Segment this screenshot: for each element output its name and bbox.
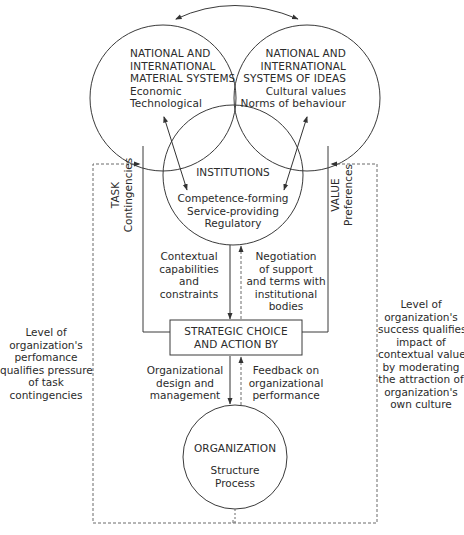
institutions-item-competence: Competence-forming xyxy=(173,192,293,205)
strategic-choice-label: STRATEGIC CHOICE AND ACTION BY xyxy=(170,325,302,350)
material-item-technological: Technological xyxy=(130,97,235,110)
right-note-line-4: impact of xyxy=(378,336,464,349)
negotiation-line-2: of support xyxy=(243,263,329,276)
right-note-line-2: organization's xyxy=(378,311,464,324)
organization-title: ORGANIZATION xyxy=(185,442,285,455)
ideas-item-norms: Norms of behaviour xyxy=(241,97,346,110)
left-note-line-6: contingencies xyxy=(0,389,92,402)
organization-items: Structure Process xyxy=(185,464,285,489)
negotiation-line-5: bodies xyxy=(243,300,329,313)
contextual-line-2: capabilities xyxy=(150,263,228,276)
left-note-line-1: Level of xyxy=(0,326,92,339)
organization-item-process: Process xyxy=(185,477,285,490)
top-double-arrow xyxy=(176,6,298,20)
material-systems-label: NATIONAL AND INTERNATIONAL MATERIAL SYST… xyxy=(130,47,235,110)
material-title-1: NATIONAL AND xyxy=(130,47,235,60)
ideas-title-3: SYSTEMS OF IDEAS xyxy=(241,72,346,85)
institutions-title: INSTITUTIONS xyxy=(183,166,283,179)
organization-item-structure: Structure xyxy=(185,464,285,477)
contextual-label: Contextual capabilities and constraints xyxy=(150,250,228,300)
ideas-systems-label: NATIONAL AND INTERNATIONAL SYSTEMS OF ID… xyxy=(241,47,346,110)
negotiation-line-4: institutional xyxy=(243,288,329,301)
material-institutions-arrow xyxy=(164,117,187,190)
org-design-label: Organizational design and management xyxy=(142,364,228,402)
feedback-line-1: Feedback on xyxy=(243,364,329,377)
right-note-line-9: own culture xyxy=(378,398,464,411)
ideas-institutions-arrow xyxy=(284,117,307,190)
material-title-3: MATERIAL SYSTEMS xyxy=(130,72,235,85)
right-note-line-6: by moderating xyxy=(378,361,464,374)
strategic-line-2: AND ACTION BY xyxy=(170,338,302,351)
ideas-item-cultural: Cultural values xyxy=(241,85,346,98)
strategic-line-1: STRATEGIC CHOICE xyxy=(170,325,302,338)
task-contingencies-label: TASK Contingencies xyxy=(109,155,137,235)
feedback-label: Feedback on organizational performance xyxy=(243,364,329,402)
material-item-economic: Economic xyxy=(130,85,235,98)
value-title: VALUE xyxy=(329,155,342,235)
contextual-line-3: and xyxy=(150,275,228,288)
task-title: TASK xyxy=(109,155,122,235)
ideas-title-2: INTERNATIONAL xyxy=(241,60,346,73)
left-note-line-2: organization's xyxy=(0,339,92,352)
organization-circle xyxy=(183,405,287,509)
institutions-items: Competence-forming Service-providing Reg… xyxy=(173,192,293,230)
org-design-line-1: Organizational xyxy=(142,364,228,377)
negotiation-line-3: and terms with xyxy=(243,275,329,288)
right-success-note: Level of organization's success qualifie… xyxy=(378,298,464,411)
right-note-line-8: organization's xyxy=(378,386,464,399)
institutions-item-service: Service-providing xyxy=(173,205,293,218)
feedback-line-3: performance xyxy=(243,389,329,402)
institutions-item-regulatory: Regulatory xyxy=(173,217,293,230)
org-design-line-2: design and xyxy=(142,377,228,390)
value-preferences-label: VALUE Preferences xyxy=(329,155,357,235)
value-sub: Preferences xyxy=(342,155,355,235)
task-sub: Contingencies xyxy=(122,155,135,235)
left-note-line-4: qualifies pressure xyxy=(0,364,92,377)
left-note-line-3: perfomance xyxy=(0,351,92,364)
right-note-line-7: the attraction of xyxy=(378,373,464,386)
right-note-line-5: contextual values xyxy=(378,348,464,361)
negotiation-line-1: Negotiation xyxy=(243,250,329,263)
left-performance-note: Level of organization's perfomance quali… xyxy=(0,326,92,401)
right-note-line-1: Level of xyxy=(378,298,464,311)
right-note-line-3: success qualifies xyxy=(378,323,464,336)
negotiation-label: Negotiation of support and terms with in… xyxy=(243,250,329,313)
feedback-line-2: organizational xyxy=(243,377,329,390)
task-solid-line xyxy=(143,146,170,332)
org-design-line-3: management xyxy=(142,389,228,402)
material-title-2: INTERNATIONAL xyxy=(130,60,235,73)
contextual-line-1: Contextual xyxy=(150,250,228,263)
ideas-title-1: NATIONAL AND xyxy=(241,47,346,60)
left-note-line-5: of task xyxy=(0,376,92,389)
contextual-line-4: constraints xyxy=(150,288,228,301)
